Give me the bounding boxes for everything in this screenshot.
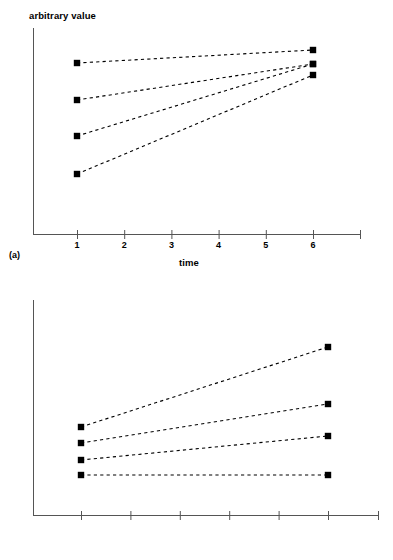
data-point-marker (78, 472, 84, 478)
chart-a-series-lines (77, 50, 313, 174)
x-tick-label-5: 5 (256, 240, 276, 250)
chart-b-plot-area (0, 280, 393, 560)
data-point-marker (78, 457, 84, 463)
chart-panel-a: arbitrary value time (a) 123456 (0, 0, 393, 280)
data-point-marker (325, 401, 331, 407)
x-tick-label-1: 1 (67, 240, 87, 250)
data-point-marker (74, 97, 80, 103)
data-point-marker (310, 47, 316, 53)
series-line-series-4 (77, 75, 313, 174)
chart-b-series-markers (78, 344, 331, 478)
y-axis-title-a: arbitrary value (29, 10, 96, 21)
series-line-series-2 (81, 404, 328, 443)
data-point-marker (310, 72, 316, 78)
x-tick-label-4: 4 (209, 240, 229, 250)
data-point-marker (74, 60, 80, 66)
chart-a-plot-area (0, 0, 393, 280)
data-point-marker (74, 133, 80, 139)
x-tick-label-6: 6 (303, 240, 323, 250)
panel-label-a: (a) (9, 250, 20, 260)
series-line-series-1 (77, 50, 313, 63)
chart-panel-b: arbitrary value time (b) 123456 (0, 280, 393, 560)
data-point-marker (74, 171, 80, 177)
data-point-marker (78, 440, 84, 446)
x-tick-label-2: 2 (114, 240, 134, 250)
series-line-series-3 (77, 64, 313, 136)
chart-b-series-lines (81, 347, 328, 475)
series-line-series-2 (77, 64, 313, 100)
data-point-marker (310, 61, 316, 67)
series-line-series-1 (81, 347, 328, 427)
data-point-marker (78, 424, 84, 430)
x-tick-label-3: 3 (161, 240, 181, 250)
data-point-marker (325, 472, 331, 478)
data-point-marker (325, 344, 331, 350)
chart-a-series-markers (74, 47, 316, 177)
series-line-series-3 (81, 436, 328, 460)
data-point-marker (325, 433, 331, 439)
x-axis-title-a: time (179, 257, 199, 268)
